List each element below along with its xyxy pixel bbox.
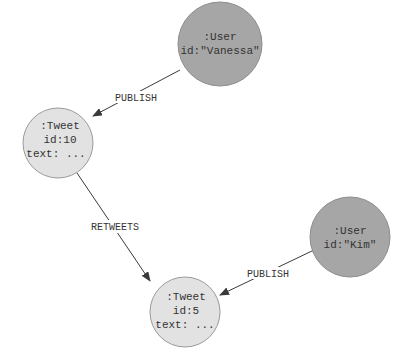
node-tweet-10[interactable]: :Tweet id:10 text: ... xyxy=(23,108,93,178)
node-property: id:"Kim" xyxy=(324,239,377,251)
node-property: text: ... xyxy=(155,319,214,331)
node-label: :Tweet xyxy=(166,291,206,303)
node-user-kim[interactable]: :User id:"Kim" xyxy=(310,197,390,277)
node-label: :Tweet xyxy=(40,120,80,132)
node-property: id:5 xyxy=(173,305,199,317)
graph-diagram: PUBLISH RETWEETS PUBLISH :User id:"Vanes… xyxy=(0,0,408,364)
node-label: :User xyxy=(333,225,366,237)
edge-label-retweets: RETWEETS xyxy=(91,222,139,233)
node-property: id:"Vanessa" xyxy=(180,45,259,57)
node-property: id:10 xyxy=(43,134,76,146)
node-user-vanessa[interactable]: :User id:"Vanessa" xyxy=(178,2,262,86)
node-tweet-5[interactable]: :Tweet id:5 text: ... xyxy=(150,277,220,347)
node-circle[interactable] xyxy=(310,197,390,277)
edge-vanessa-publish-tweet10: PUBLISH xyxy=(93,70,180,116)
node-label: :User xyxy=(203,31,236,43)
edge-label-publish: PUBLISH xyxy=(247,269,289,280)
edge-kim-publish-tweet5: PUBLISH xyxy=(220,250,314,295)
edge-label-publish: PUBLISH xyxy=(115,93,157,104)
node-property: text: ... xyxy=(26,148,85,160)
edge-tweet10-retweets-tweet5: RETWEETS xyxy=(77,173,150,281)
node-circle[interactable] xyxy=(178,2,262,86)
